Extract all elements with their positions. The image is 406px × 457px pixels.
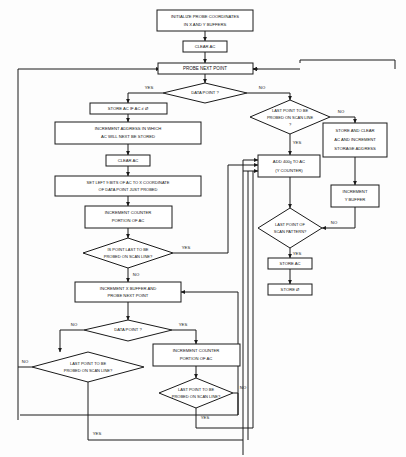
node-data-point-question-bottom: DATA POINT ? xyxy=(84,320,172,341)
probe-next-point-label: PROBE NEXT POINT xyxy=(183,66,227,71)
store-ac-if-label: STORE AC IF AC ≠ Ø xyxy=(108,106,149,111)
increment-y-buffer-line2: Y BUFFER xyxy=(345,197,366,202)
node-last-point-pattern-question: LAST POINT OF SCAN PATTERN? xyxy=(258,208,322,248)
store-and-clear-line2: AC AND INCREMENT xyxy=(334,137,376,142)
edge-label-yes-pattern-down: YES xyxy=(293,251,302,256)
last-point-pattern-line2: SCAN PATTERN? xyxy=(274,229,307,234)
increment-y-buffer-line1: INCREMENT xyxy=(343,189,368,194)
edge-label-yes-mid-right: YES xyxy=(182,245,191,250)
clear-ac-top-label: CLEAR AC xyxy=(195,44,216,49)
edge-label-no-top-right: NO xyxy=(259,85,266,90)
node-set-left-bits: SET LEFT 9 BITS OF AC TO X COORDINATE OF… xyxy=(55,176,201,196)
initialize-line2: IN X AND Y BUFFERS xyxy=(184,22,227,27)
set-left-bits-line1: SET LEFT 9 BITS OF AC TO X COORDINATE xyxy=(87,180,170,185)
is-point-last-line2: PROBED ON SCAN LINE? xyxy=(104,254,153,259)
connector-datapoint-no xyxy=(247,93,290,100)
connector-lastpointright-no xyxy=(330,117,355,123)
store-and-clear-line3: STORAGE ADDRESS xyxy=(334,146,376,151)
edge-label-yes-bottom-right: YES xyxy=(179,322,188,327)
add-to-ac-prefix: ADD xyxy=(273,159,283,164)
node-increment-x-buffer: INCREMENT X BUFFER AND PROBE NEXT POINT xyxy=(75,282,181,302)
edge-label-no-mid-down: NO xyxy=(133,272,140,277)
increment-x-buffer-line1: INCREMENT X BUFFER AND xyxy=(100,286,156,291)
last-point-left-line1: LAST POINT TO BE xyxy=(70,361,106,366)
last-point-right-line2: PROBED ON SCAN LINE xyxy=(267,115,314,120)
node-increment-y-buffer: INCREMENT Y BUFFER xyxy=(331,185,379,207)
edge-label-no-bottom-inner: NO xyxy=(240,385,247,390)
connector-datapoint2-yes xyxy=(172,330,196,344)
increment-counter-mid-line2: PORTION OF AC xyxy=(112,218,145,223)
add-to-ac-line2: (Y COUNTER) xyxy=(275,168,303,173)
data-point-top-label: DATA POINT ? xyxy=(191,90,219,95)
add-to-ac-suffix: TO AC xyxy=(292,159,306,164)
last-point-right-line1: LAST POINT TO BE xyxy=(272,108,308,113)
node-increment-address: INCREMENT ADDRESS IN WHICH AC WILL NEXT … xyxy=(55,122,201,144)
node-store-and-clear: STORE AND CLEAR AC AND INCREMENT STORAGE… xyxy=(323,123,387,157)
edge-label-no-pattern-right: NO xyxy=(331,220,338,225)
increment-counter-bottom-line2: PORTION OF AC xyxy=(180,356,213,361)
node-store-ac: STORE AC xyxy=(268,258,312,269)
initialize-line1: INITIALIZE PROBE COORDINATES xyxy=(171,14,239,19)
node-add-to-ac: ADD 4008 TO AC (Y COUNTER) xyxy=(258,155,320,177)
connector-datapoint2-no xyxy=(60,330,84,352)
edge-label-yes-right-inner: YES xyxy=(293,140,302,145)
last-point-bottom-line2: PROBED ON SCAN LINE? xyxy=(172,394,221,399)
node-is-point-last-question: IS POINT LAST TO BE PROBED ON SCAN LINE? xyxy=(83,238,173,268)
increment-address-line1: INCREMENT ADDRESS IN WHICH xyxy=(95,126,162,131)
last-point-left-line2: PROBED ON SCAN LINE? xyxy=(64,368,113,373)
increment-counter-mid-line1: INCREMENT COUNTER xyxy=(105,210,152,215)
clear-ac-mid-label: CLEAR AC xyxy=(118,158,139,163)
flowchart-svg: INITIALIZE PROBE COORDINATES IN X AND Y … xyxy=(0,0,406,457)
last-point-pattern-line1: LAST POINT OF xyxy=(275,222,305,227)
last-point-bottom-line1: LAST POINT TO BE xyxy=(178,387,214,392)
node-increment-counter-mid: INCREMENT COUNTER PORTION OF AC xyxy=(85,206,172,228)
node-last-point-scanline-left: LAST POINT TO BE PROBED ON SCAN LINE? xyxy=(32,352,144,382)
edge-label-no-far-left: NO xyxy=(22,359,29,364)
edge-label-yes-bottom-inner: YES xyxy=(201,415,210,420)
node-store-ac-if: STORE AC IF AC ≠ Ø xyxy=(90,103,167,114)
node-last-point-scanline-right: LAST POINT TO BE PROBED ON SCAN LINE ? xyxy=(250,100,330,134)
edge-label-yes-far-left-bottom: YES xyxy=(93,431,102,436)
store-zero-label: STORE Ø xyxy=(281,287,301,292)
is-point-last-line1: IS POINT LAST TO BE xyxy=(107,247,148,252)
node-probe-next-point: PROBE NEXT POINT xyxy=(158,63,253,74)
store-ac-label: STORE AC xyxy=(279,261,300,266)
node-store-zero: STORE Ø xyxy=(268,284,312,295)
node-clear-ac-mid: CLEAR AC xyxy=(106,155,150,166)
node-data-point-question-top: DATA POINT ? xyxy=(163,83,247,103)
increment-address-line2: AC WILL NEXT BE STORED xyxy=(101,134,155,139)
edge-label-no-right-outer: NO xyxy=(338,109,345,114)
edge-label-yes-top-left: YES xyxy=(145,85,154,90)
node-increment-counter-bottom: INCREMENT COUNTER PORTION OF AC xyxy=(153,344,240,366)
set-left-bits-line2: OF DATA POINT JUST PROBED xyxy=(99,187,158,192)
increment-counter-bottom-line1: INCREMENT COUNTER xyxy=(173,348,220,353)
store-and-clear-line1: STORE AND CLEAR xyxy=(335,128,374,133)
edge-label-no-bottom-left: NO xyxy=(71,322,78,327)
node-last-point-scanline-bottom: LAST POINT TO BE PROBED ON SCAN LINE? xyxy=(159,378,233,408)
flowchart-canvas: INITIALIZE PROBE COORDINATES IN X AND Y … xyxy=(0,0,406,457)
data-point-bottom-label: DATA POINT ? xyxy=(114,327,142,332)
connector-datapoint-yes xyxy=(128,93,163,103)
node-clear-ac-top: CLEAR AC xyxy=(183,41,227,52)
node-initialize: INITIALIZE PROBE COORDINATES IN X AND Y … xyxy=(157,10,253,31)
increment-x-buffer-line2: PROBE NEXT POINT xyxy=(108,293,149,298)
